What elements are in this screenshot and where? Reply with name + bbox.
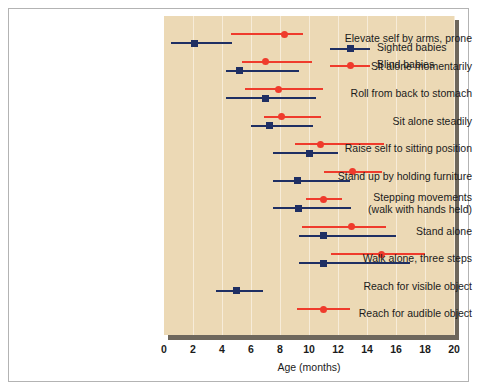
gridline <box>280 16 281 335</box>
range-line <box>226 97 316 99</box>
square-marker-icon <box>294 177 301 184</box>
square-marker-icon <box>347 45 354 52</box>
range-line <box>264 116 321 118</box>
x-tick-label: 8 <box>268 343 292 355</box>
square-marker-icon <box>233 287 240 294</box>
circle-marker-icon <box>262 58 269 65</box>
category-label: Roll from back to stomach <box>320 87 478 99</box>
legend-item-blind[interactable]: Blind babies <box>330 57 455 74</box>
x-tick-label: 2 <box>181 343 205 355</box>
category-label: Reach for visible object <box>320 280 478 292</box>
range-line <box>245 88 323 90</box>
range-line <box>231 33 304 35</box>
x-tick-label: 14 <box>355 343 379 355</box>
square-marker-icon <box>266 122 273 129</box>
square-marker-icon <box>295 205 302 212</box>
x-tick-label: 10 <box>297 343 321 355</box>
circle-marker-icon <box>278 113 285 120</box>
x-tick-label: 20 <box>442 343 466 355</box>
square-marker-icon <box>306 150 313 157</box>
x-tick-label: 0 <box>152 343 176 355</box>
category-label: Reach for audible object <box>320 307 478 319</box>
x-axis-title: Age (months) <box>164 361 454 373</box>
range-line <box>242 61 312 63</box>
x-tick-label: 16 <box>384 343 408 355</box>
legend-item-sighted[interactable]: Sighted babies <box>330 40 455 57</box>
category-label: Stepping movements (walk with hands held… <box>320 191 478 215</box>
square-marker-icon <box>262 95 269 102</box>
legend: Sighted babies Blind babies <box>330 40 455 74</box>
x-tick-label: 4 <box>210 343 234 355</box>
category-label: Sit alone steadily <box>320 115 478 127</box>
circle-marker-icon <box>275 86 282 93</box>
range-line <box>171 42 232 44</box>
x-tick-label: 12 <box>326 343 350 355</box>
legend-label-sighted: Sighted babies <box>377 41 446 53</box>
circle-marker-icon <box>281 31 288 38</box>
gridline <box>251 16 252 335</box>
gridline <box>222 16 223 335</box>
range-chart: Elevate self by arms, proneSit alone mom… <box>0 0 478 391</box>
category-label: Raise self to sitting position <box>320 142 478 154</box>
plot-shadow-bottom <box>168 335 459 340</box>
category-label: Stand up by holding furniture <box>320 170 478 182</box>
x-tick-label: 6 <box>239 343 263 355</box>
circle-marker-icon <box>347 62 354 69</box>
category-label: Walk alone, three steps <box>320 252 478 264</box>
range-line <box>251 125 313 127</box>
legend-label-blind: Blind babies <box>377 58 434 70</box>
gridline <box>309 16 310 335</box>
square-marker-icon <box>236 67 243 74</box>
x-tick-label: 18 <box>413 343 437 355</box>
category-label: Stand alone <box>320 225 478 237</box>
square-marker-icon <box>191 40 198 47</box>
gridline <box>193 16 194 335</box>
